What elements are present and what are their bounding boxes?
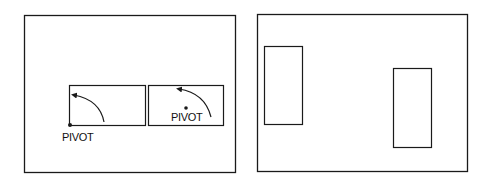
vertical-rect-lower-right <box>394 69 432 148</box>
box-center-pivot: PIVOT <box>149 86 224 126</box>
pivot-point <box>68 123 72 127</box>
right-panel <box>258 15 468 172</box>
pivot-point <box>184 106 188 110</box>
vertical-rect-upper-left <box>265 47 303 125</box>
left-panel: PIVOT PIVOT <box>25 16 236 173</box>
pivot-label: PIVOT <box>62 131 94 143</box>
rotation-arrow-icon <box>74 95 104 122</box>
pivot-label: PIVOT <box>171 111 203 123</box>
box-corner-pivot: PIVOT <box>62 86 146 144</box>
